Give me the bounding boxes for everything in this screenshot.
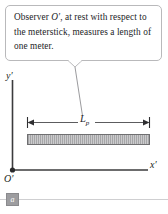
callout-line1-prefix: Observer xyxy=(14,12,51,22)
panel-divider-rule xyxy=(0,199,168,200)
y-axis-label: y′ xyxy=(6,70,13,81)
panel-label-badge: a xyxy=(6,193,19,206)
proper-length-label: Lp xyxy=(80,113,89,127)
dimension-arrow-right xyxy=(143,120,150,126)
origin-dot xyxy=(10,167,15,172)
x-axis-label: x′ xyxy=(150,159,157,170)
callout-text: Observer O′, at rest with respect to the… xyxy=(14,10,156,54)
meterstick-bar xyxy=(27,134,150,145)
dimension-arrow-left xyxy=(28,120,35,126)
callout-leader-line xyxy=(75,67,83,119)
relativity-proper-length-figure: Observer O′, at rest with respect to the… xyxy=(0,0,168,214)
callout-box: Observer O′, at rest with respect to the… xyxy=(5,5,162,61)
observer-symbol: O′ xyxy=(51,12,60,22)
callout-line1-suffix: , at rest with respect xyxy=(60,12,137,22)
proper-length-subscript: p xyxy=(86,119,90,127)
callout-tail-notch xyxy=(68,61,82,68)
origin-label: O′ xyxy=(4,173,13,184)
